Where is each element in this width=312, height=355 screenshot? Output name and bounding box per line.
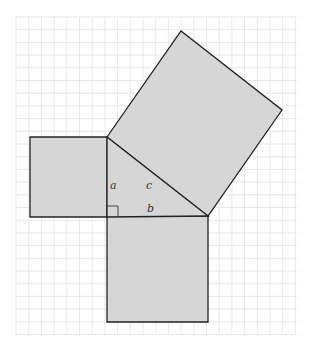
square-on-leg-b [107, 216, 208, 322]
label-b: b [147, 202, 154, 215]
label-c: c [146, 179, 152, 192]
pythagorean-diagram: a c b [0, 0, 312, 355]
square-on-leg-a [30, 137, 107, 217]
label-a: a [110, 179, 117, 192]
